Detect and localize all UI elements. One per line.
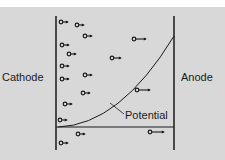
electrons-group <box>58 20 165 145</box>
cathode-label: Cathode <box>2 72 44 83</box>
diagram-canvas: Cathode Anode Potential <box>0 0 225 160</box>
electron-icon <box>148 130 165 134</box>
electron-icon <box>59 20 69 24</box>
electron-icon <box>59 141 69 145</box>
electron-icon <box>60 64 70 68</box>
electron-icon <box>58 118 68 122</box>
electron-icon <box>60 43 70 47</box>
electron-icon <box>132 37 147 41</box>
potential-label: Potential <box>125 110 168 121</box>
electron-icon <box>75 23 85 27</box>
electron-icon <box>83 73 93 77</box>
electron-icon <box>67 52 77 56</box>
electron-icon <box>81 91 91 95</box>
electron-icon <box>135 88 151 92</box>
electron-icon <box>63 102 73 106</box>
electron-icon <box>83 34 93 38</box>
electron-icon <box>60 77 70 81</box>
electron-icon <box>110 56 122 60</box>
electron-icon <box>76 132 86 136</box>
anode-label: Anode <box>181 72 213 83</box>
